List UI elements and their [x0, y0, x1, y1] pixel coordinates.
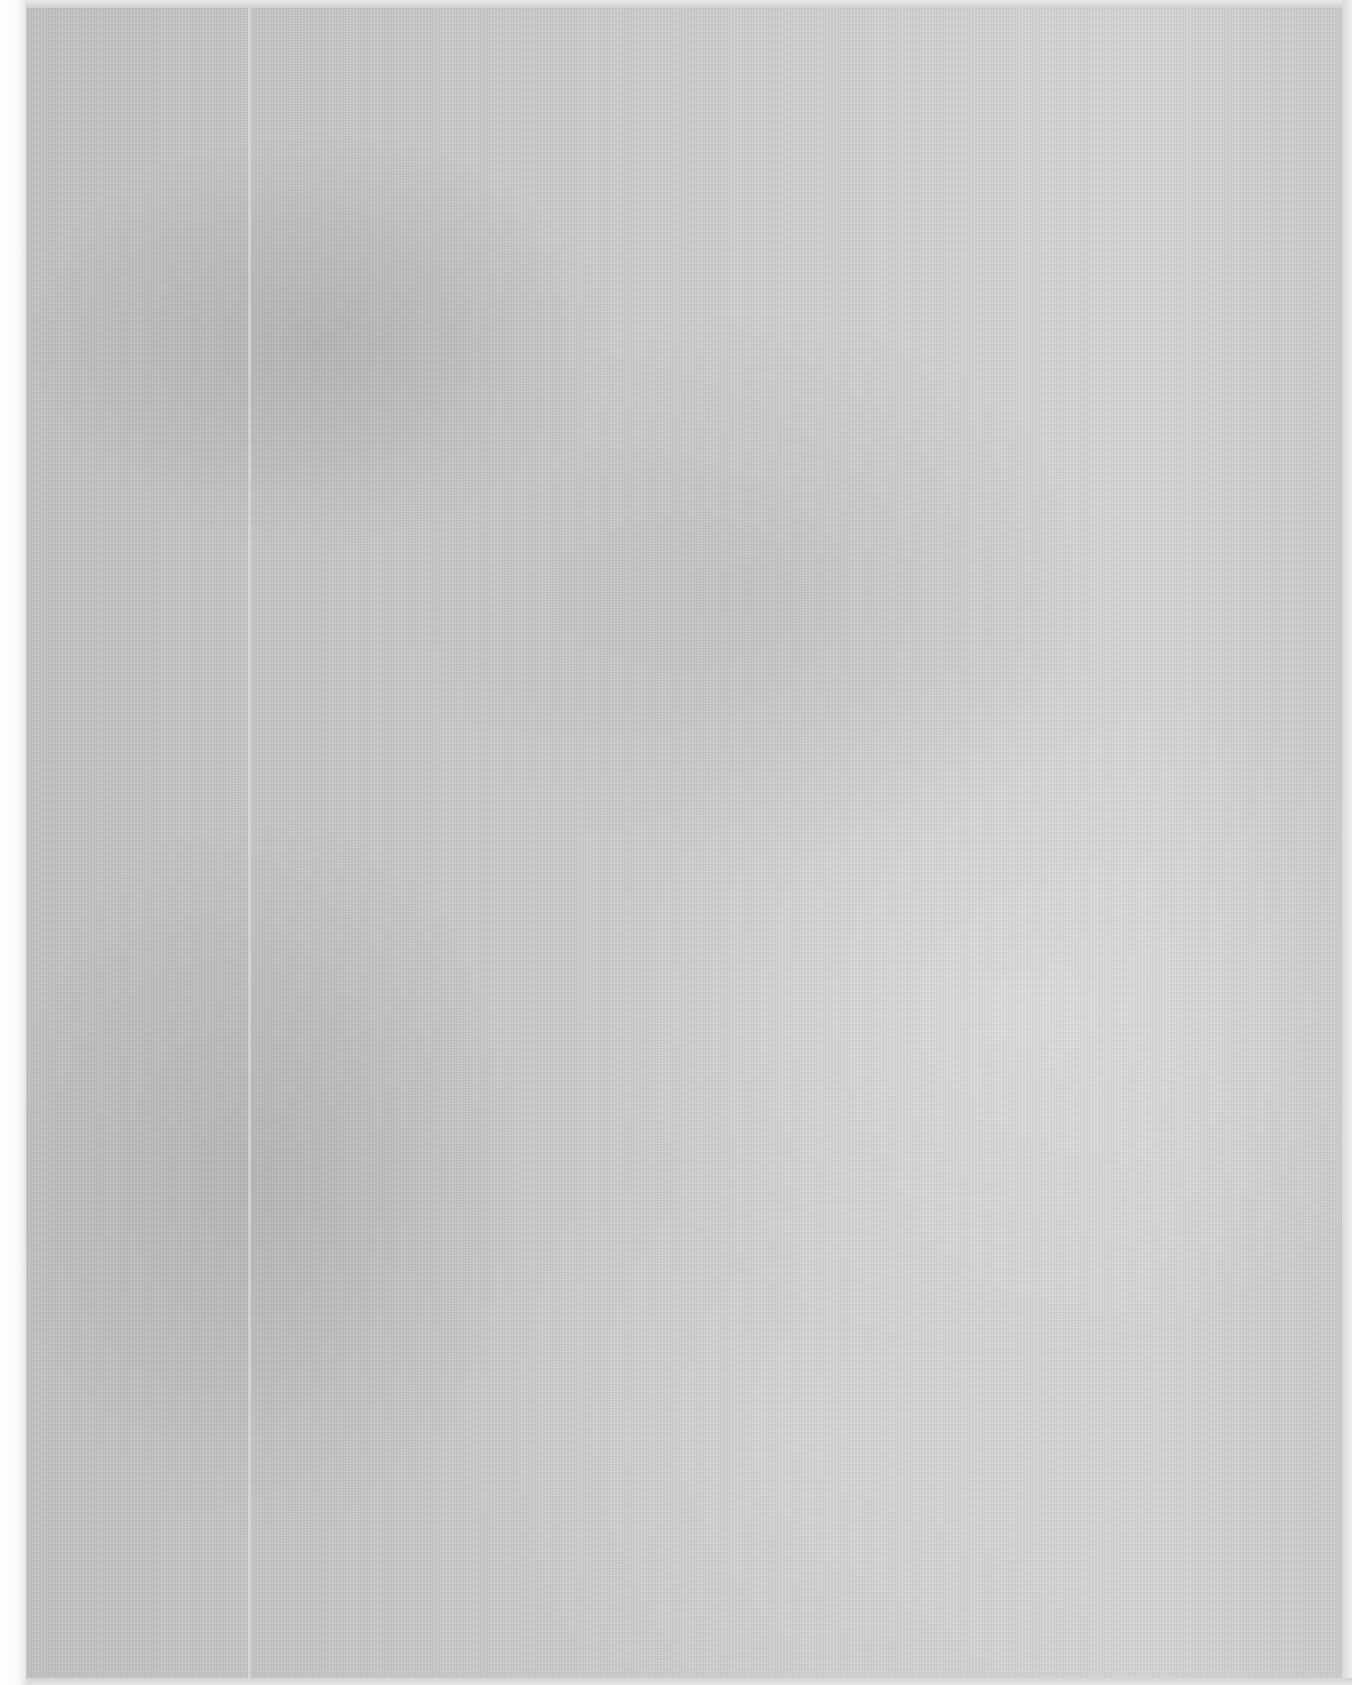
scanned-page: [0, 0, 1352, 1685]
bottom-scan-edge: [26, 1678, 1352, 1685]
blank-paper-surface: [26, 8, 1344, 1678]
top-scan-edge: [26, 0, 1352, 8]
paper-crease: [248, 8, 251, 1678]
right-scan-edge: [1342, 0, 1352, 1685]
left-scan-margin: [0, 0, 26, 1685]
